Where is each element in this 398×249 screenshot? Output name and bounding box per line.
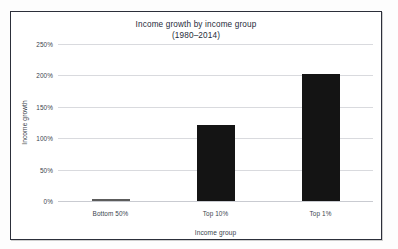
gridline-0% (58, 201, 373, 202)
x-tick-label: Top 1% (310, 210, 332, 217)
y-axis-title: Income growth (21, 44, 33, 201)
gridline-250% (58, 44, 373, 45)
bar-top-10[interactable] (197, 125, 235, 201)
x-axis-title: Income group (58, 229, 373, 236)
x-tick-label: Bottom 50% (93, 210, 129, 217)
screenshot-page: Income growth by income group (1980–2014… (0, 0, 398, 249)
y-tick-label: 150% (36, 103, 53, 110)
y-tick-label: 50% (40, 166, 53, 173)
y-tick-label: 200% (36, 72, 53, 79)
y-tick-label: 0% (44, 198, 53, 205)
x-tick-label: Top 10% (203, 210, 229, 217)
chart-title: Income growth by income group (11, 19, 381, 30)
bar-bottom-50[interactable] (92, 199, 130, 201)
chart-figure-frame: Income growth by income group (1980–2014… (10, 11, 382, 240)
chart-title-block: Income growth by income group (1980–2014… (11, 19, 381, 41)
y-tick-label: 100% (36, 135, 53, 142)
plot-area: 0%50%100%150%200%250%Bottom 50%Top 10%To… (58, 44, 373, 201)
y-tick-label: 250% (36, 41, 53, 48)
bar-top-1[interactable] (302, 74, 340, 201)
chart-subtitle: (1980–2014) (11, 30, 381, 41)
